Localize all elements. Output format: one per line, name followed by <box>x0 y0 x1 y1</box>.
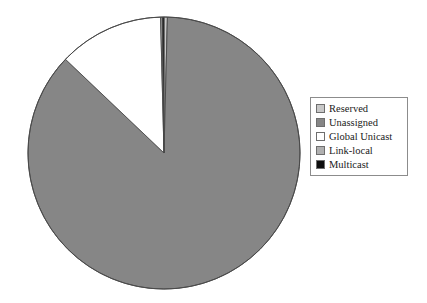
legend-item-global-unicast: Global Unicast <box>316 130 403 143</box>
legend-label-global-unicast: Global Unicast <box>329 131 392 142</box>
legend-item-link-local: Link-local <box>316 144 403 157</box>
pie-slice-group <box>28 17 300 289</box>
legend-label-unassigned: Unassigned <box>329 117 378 128</box>
legend-item-reserved: Reserved <box>316 102 403 115</box>
legend-swatch-unassigned <box>316 118 325 127</box>
legend-label-reserved: Reserved <box>329 103 368 114</box>
legend-swatch-link-local <box>316 146 325 155</box>
legend-item-unassigned: Unassigned <box>316 116 403 129</box>
legend-label-link-local: Link-local <box>329 145 373 156</box>
legend-label-multicast: Multicast <box>329 159 369 170</box>
legend-swatch-global-unicast <box>316 132 325 141</box>
legend-item-multicast: Multicast <box>316 158 403 171</box>
legend-swatch-reserved <box>316 104 325 113</box>
legend-swatch-multicast <box>316 160 325 169</box>
pie-chart-figure: Reserved Unassigned Global Unicast Link-… <box>0 0 427 303</box>
chart-legend: Reserved Unassigned Global Unicast Link-… <box>310 97 408 176</box>
